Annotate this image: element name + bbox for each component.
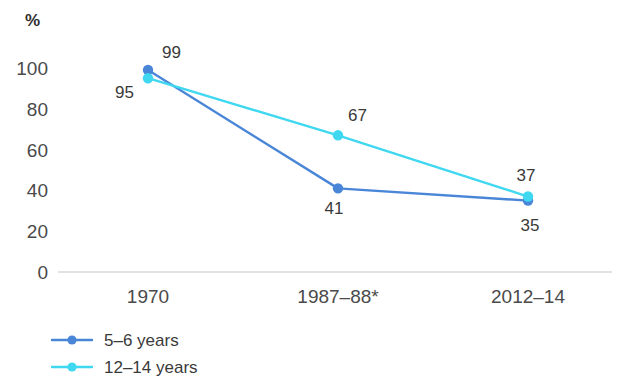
data-point-value-label: 95 — [115, 83, 134, 102]
legend-item[interactable]: 12–14 years — [52, 358, 198, 377]
data-point-marker — [333, 130, 343, 140]
data-point-value-label: 99 — [162, 43, 181, 62]
series-points-group — [143, 65, 533, 206]
data-point-value-label: 37 — [517, 166, 536, 185]
y-axis-tick-label: 20 — [27, 221, 48, 242]
data-point-marker — [523, 191, 533, 201]
data-point-value-label: 41 — [325, 199, 344, 218]
chart-canvas: % 020406080100 994135956737 19701987–88*… — [0, 0, 624, 383]
legend-dot-swatch — [67, 335, 76, 344]
legend-item-label: 12–14 years — [104, 358, 198, 377]
y-axis-tick-label: 100 — [16, 58, 48, 79]
data-point-value-labels: 994135956737 — [115, 43, 539, 235]
y-axis-tick-label: 60 — [27, 140, 48, 161]
data-point-value-label: 35 — [521, 216, 540, 235]
y-axis-tick-label: 0 — [37, 262, 48, 283]
legend-item[interactable]: 5–6 years — [52, 331, 179, 350]
x-axis-tick-label: 1970 — [127, 286, 169, 307]
data-point-marker — [333, 183, 343, 193]
line-chart: % 020406080100 994135956737 19701987–88*… — [0, 0, 624, 383]
y-axis-unit-text: % — [25, 11, 40, 30]
data-point-marker — [143, 73, 153, 83]
x-axis-tick-label: 1987–88* — [297, 286, 379, 307]
x-axis-tick-labels: 19701987–88*2012–14 — [127, 286, 566, 307]
y-axis-tick-labels: 020406080100 — [16, 58, 48, 283]
chart-legend: 5–6 years12–14 years — [52, 331, 198, 377]
legend-dot-swatch — [67, 362, 76, 371]
legend-item-label: 5–6 years — [104, 331, 179, 350]
y-axis-unit-label: % — [25, 11, 40, 30]
y-axis-tick-label: 40 — [27, 180, 48, 201]
x-axis-tick-label: 2012–14 — [491, 286, 565, 307]
data-point-value-label: 67 — [348, 106, 367, 125]
y-axis-tick-label: 80 — [27, 99, 48, 120]
